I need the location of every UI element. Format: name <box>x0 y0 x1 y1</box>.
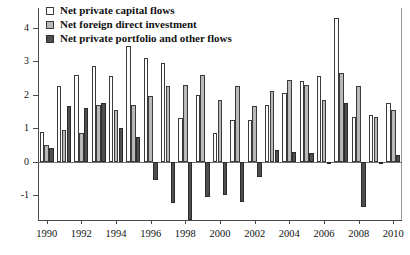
bar <box>148 96 152 161</box>
bar <box>57 86 61 161</box>
x-tick-label: 1998 <box>175 228 196 239</box>
bar <box>101 103 105 161</box>
bar <box>344 103 348 161</box>
x-tick-label: 2002 <box>244 228 265 239</box>
legend-swatch-icon <box>46 21 54 29</box>
bar <box>92 66 96 161</box>
bar <box>287 80 291 162</box>
bar <box>161 63 165 161</box>
legend-item: Net foreign direct investment <box>46 18 232 31</box>
bar <box>213 133 217 161</box>
bar <box>322 100 326 162</box>
bar <box>119 128 123 161</box>
bar <box>183 85 187 162</box>
x-tick-mark <box>289 220 290 224</box>
x-tick-label: 2008 <box>348 228 369 239</box>
x-tick-label: 2000 <box>210 228 231 239</box>
bar <box>144 58 148 162</box>
bar <box>40 132 44 162</box>
y-tick-label: 0 <box>0 157 29 167</box>
bar <box>292 152 296 162</box>
bar <box>361 162 365 207</box>
x-tick-mark <box>255 220 256 224</box>
legend-label: Net foreign direct investment <box>60 19 197 30</box>
bar <box>240 162 244 202</box>
bar <box>200 75 204 162</box>
bar <box>49 148 53 161</box>
bar <box>386 103 390 161</box>
x-tick-mark <box>359 220 360 224</box>
x-tick-mark <box>116 220 117 224</box>
legend-swatch-icon <box>46 35 54 43</box>
bar-chart: 43210-1 19901992199419961998200020022004… <box>0 0 410 255</box>
legend: Net private capital flowsNet foreign dir… <box>46 4 232 46</box>
bar <box>352 117 356 162</box>
bar <box>188 162 192 220</box>
y-tick-label: 4 <box>0 23 29 33</box>
bar <box>230 120 234 162</box>
legend-label: Net private capital flows <box>60 5 175 16</box>
bar <box>356 86 360 161</box>
x-tick-mark <box>151 220 152 224</box>
bar <box>391 110 395 162</box>
y-tick-label: 3 <box>0 56 29 66</box>
bar <box>334 18 338 162</box>
x-tick-mark <box>81 220 82 224</box>
legend-swatch-icon <box>46 7 54 15</box>
bar <box>109 76 113 161</box>
x-tick-label: 1996 <box>140 228 161 239</box>
bar <box>252 106 256 161</box>
y-tick-label: 2 <box>0 90 29 100</box>
x-tick-mark <box>393 220 394 224</box>
bar <box>379 162 383 164</box>
bar <box>223 162 227 195</box>
bar <box>396 155 400 162</box>
bar <box>96 105 100 162</box>
bar <box>126 46 130 161</box>
bar <box>218 100 222 162</box>
bar <box>171 162 175 204</box>
x-tick-label: 1994 <box>106 228 127 239</box>
bar <box>257 162 261 177</box>
x-tick-mark <box>185 220 186 224</box>
bar <box>235 86 239 161</box>
bar <box>282 93 286 161</box>
bar <box>67 106 71 161</box>
x-tick-mark <box>324 220 325 224</box>
bar <box>369 115 373 162</box>
x-tick-mark <box>47 220 48 224</box>
bar <box>131 105 135 162</box>
x-tick-mark <box>220 220 221 224</box>
bar <box>300 81 304 161</box>
bar <box>374 117 378 162</box>
y-tick-label: -1 <box>0 190 29 200</box>
bar <box>265 105 269 162</box>
bar <box>317 76 321 161</box>
bar <box>275 150 279 162</box>
bar <box>304 85 308 162</box>
bar <box>79 133 83 161</box>
legend-item: Net private portfolio and other flows <box>46 32 232 45</box>
bar <box>44 145 48 162</box>
x-tick-label: 2010 <box>383 228 404 239</box>
bar <box>136 137 140 162</box>
x-tick-label: 2004 <box>279 228 300 239</box>
x-tick-label: 1992 <box>71 228 92 239</box>
bar <box>178 118 182 161</box>
bar <box>205 162 209 197</box>
bar <box>114 110 118 162</box>
bar <box>327 162 331 164</box>
bar <box>74 75 78 162</box>
bar <box>84 108 88 161</box>
bar <box>309 153 313 161</box>
bar <box>270 91 274 161</box>
bar <box>196 95 200 162</box>
bar <box>166 86 170 161</box>
x-tick-label: 1990 <box>36 228 57 239</box>
bar <box>339 73 343 161</box>
x-tick-label: 2006 <box>314 228 335 239</box>
y-tick-label: 1 <box>0 123 29 133</box>
bar <box>248 120 252 162</box>
legend-label: Net private portfolio and other flows <box>60 33 232 44</box>
bar <box>153 162 157 180</box>
